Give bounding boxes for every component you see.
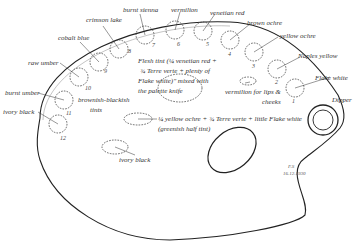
well-4: brown ochre 4 xyxy=(221,19,282,57)
well-5: venetian red 5 xyxy=(194,9,245,47)
signature: F.S 16.12.1930 xyxy=(283,164,306,176)
svg-text:2: 2 xyxy=(275,79,278,85)
svg-text:16.12.1930: 16.12.1930 xyxy=(283,171,306,176)
svg-text:ivory black: ivory black xyxy=(119,156,151,164)
svg-text:raw umber: raw umber xyxy=(28,59,59,67)
svg-text:brown ochre: brown ochre xyxy=(247,19,282,27)
well-6: vermilion 6 xyxy=(166,6,198,47)
dipper: Dipper xyxy=(308,96,352,135)
dipper-label: Dipper xyxy=(331,96,352,104)
palette-diagram: Dipper Flake white 1 Naples yellow 2 yel… xyxy=(0,0,359,241)
svg-text:cheeks: cheeks xyxy=(262,98,281,106)
svg-text:vermilion for lips &: vermilion for lips & xyxy=(225,88,281,96)
svg-text:5: 5 xyxy=(206,41,209,47)
svg-text:yellow ochre: yellow ochre xyxy=(279,32,316,40)
svg-text:4: 4 xyxy=(228,51,231,57)
svg-text:Naples yellow: Naples yellow xyxy=(297,52,338,60)
svg-text:vermilion: vermilion xyxy=(171,6,198,14)
svg-text:Flesh tint (¼ venetian red +: Flesh tint (¼ venetian red + xyxy=(137,57,217,65)
svg-text:Flake white)" mixed with: Flake white)" mixed with xyxy=(137,77,209,85)
well-12: ivory black 12 xyxy=(3,108,67,141)
svg-text:tints: tints xyxy=(90,106,102,114)
svg-text:¾ Terre verte + plenty of: ¾ Terre verte + plenty of xyxy=(140,67,211,75)
svg-text:crimson lake: crimson lake xyxy=(86,16,122,24)
svg-text:¼ yellow ochre + ¾ Terre verte: ¼ yellow ochre + ¾ Terre verte + little … xyxy=(158,115,302,123)
brownish-tints-note: brownish-blackish tints xyxy=(78,96,130,114)
greenish-half-tint: ¼ yellow ochre + ¾ Terre verte + little … xyxy=(124,113,302,133)
well-7: burnt sienna 7 xyxy=(123,6,159,48)
flesh-tint-mixture: Flesh tint (¼ venetian red + ¾ Terre ver… xyxy=(137,57,217,102)
svg-text:brownish-blackish: brownish-blackish xyxy=(78,96,130,104)
well-9: cobalt blue 9 xyxy=(58,34,108,74)
svg-text:burnt sienna: burnt sienna xyxy=(123,6,159,14)
svg-text:3: 3 xyxy=(251,63,255,69)
svg-text:F.S: F.S xyxy=(287,164,295,169)
svg-text:burnt umber: burnt umber xyxy=(5,89,40,97)
svg-text:10: 10 xyxy=(85,85,91,91)
svg-text:8: 8 xyxy=(128,48,131,54)
svg-text:12: 12 xyxy=(60,135,66,141)
svg-text:11: 11 xyxy=(66,110,72,116)
svg-text:venetian red: venetian red xyxy=(210,9,245,17)
svg-text:1: 1 xyxy=(292,98,295,104)
svg-text:cobalt blue: cobalt blue xyxy=(58,34,89,42)
svg-text:Flake white: Flake white xyxy=(314,74,348,82)
svg-text:ivory black: ivory black xyxy=(3,108,35,116)
ivory-black-mixing: ivory black xyxy=(102,140,151,164)
well-3: yellow ochre 3 xyxy=(245,32,316,69)
svg-text:(greenish half tint): (greenish half tint) xyxy=(158,125,211,133)
svg-text:9: 9 xyxy=(104,68,107,74)
svg-text:the palette knife: the palette knife xyxy=(138,87,183,95)
lips-mixture: vermilion for lips & cheeks xyxy=(225,77,281,106)
svg-text:6: 6 xyxy=(177,41,180,47)
svg-text:7: 7 xyxy=(152,42,156,48)
